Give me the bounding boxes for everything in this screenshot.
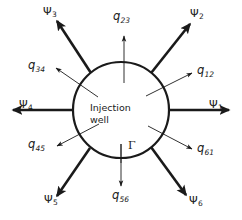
flux-label-q34: q34 [28,60,45,72]
stream-arrow-psi2 [152,24,191,73]
stream-label-psi1: Ψ1 [209,99,222,110]
stream-label-psi4-base: Ψ [19,98,28,111]
flux-arrow-q12 [146,73,192,96]
stream-label-psi2-base: Ψ [190,7,199,20]
flux-label-q12-subscript: 12 [205,70,215,79]
stream-label-psi1-subscript: 1 [218,103,223,112]
stream-label-psi6-subscript: 6 [198,199,203,208]
flux-label-q23: q23 [113,11,130,23]
flux-label-q45-base: q [28,137,35,151]
stream-label-psi5-base: Ψ [44,193,53,206]
center-label-line1: Injection [90,102,150,114]
stream-label-psi4: Ψ4 [19,99,32,110]
flux-label-q12-base: q [197,63,204,77]
flux-label-q34-base: q [28,58,35,72]
flux-label-q56-subscript: 56 [120,195,130,204]
gamma-label: Γ [128,140,136,151]
center-label-line2: well [90,114,150,126]
stream-label-psi6: Ψ6 [189,195,202,206]
center-label: Injection well [90,102,150,125]
stream-label-psi2: Ψ2 [190,8,203,19]
stream-arrow-psi3 [57,21,91,73]
flux-label-q12: q12 [197,65,214,77]
stream-arrow-psi6 [151,147,186,195]
flux-label-q56-base: q [112,188,119,202]
stream-label-psi1-base: Ψ [209,98,218,111]
stream-label-psi4-subscript: 4 [28,103,33,112]
stream-label-psi5: Ψ5 [44,194,57,205]
flux-label-q61-subscript: 61 [205,148,215,157]
stream-arrow-psi5 [57,148,90,196]
flux-label-q45-subscript: 45 [36,144,46,153]
flux-label-q61-base: q [197,141,204,155]
stream-label-psi2-subscript: 2 [199,12,204,21]
stream-label-psi3-base: Ψ [43,5,52,18]
stream-label-psi5-subscript: 5 [53,198,58,207]
flux-arrow-q45 [57,124,99,146]
flux-label-q45: q45 [28,139,45,151]
flux-label-q23-subscript: 23 [121,16,131,25]
stream-label-psi3-subscript: 3 [52,10,57,19]
flux-label-q61: q61 [197,143,214,155]
injection-well-diagram: Injection well Γ q23 q12 q61 q56 q34 q45… [0,0,242,220]
stream-label-psi6-base: Ψ [189,194,198,207]
stream-label-psi3: Ψ3 [43,6,56,17]
flux-label-q56: q56 [112,190,129,202]
flux-label-q34-subscript: 34 [36,65,46,74]
flux-label-q23-base: q [113,9,120,23]
